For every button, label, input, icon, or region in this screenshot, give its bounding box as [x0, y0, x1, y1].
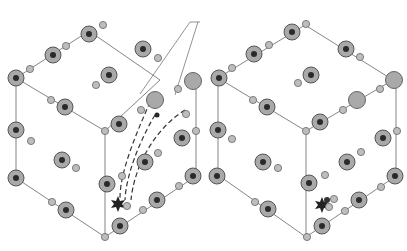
lattice-diagram — [0, 0, 407, 251]
star-defect-icon — [111, 196, 131, 212]
star-defect-icon — [315, 195, 338, 213]
right-lattice-cell — [209, 20, 403, 240]
left-lattice-cell — [8, 21, 202, 240]
